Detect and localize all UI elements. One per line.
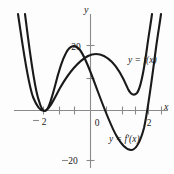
x-axis-label: x xyxy=(163,101,169,112)
x-tick-label-neg2: 2 xyxy=(42,117,47,127)
x-tick-label-2: 2 xyxy=(147,118,152,128)
y-tick-label-neg20: 20 xyxy=(68,156,78,166)
curve-label-f-prime: y = f'(x) xyxy=(108,134,140,145)
y-tick-label-20: 20 xyxy=(71,42,81,52)
curve-label-f: y = f(x) xyxy=(127,55,157,66)
y-axis-label: y xyxy=(83,4,89,15)
x-origin-label: 0 xyxy=(95,118,100,128)
plot-canvas: y x 20 20 2 0 2 y = f(x) y = f'(x) xyxy=(0,0,174,174)
graph-figure: y x 20 20 2 0 2 y = f(x) y = f'(x) xyxy=(0,0,174,174)
